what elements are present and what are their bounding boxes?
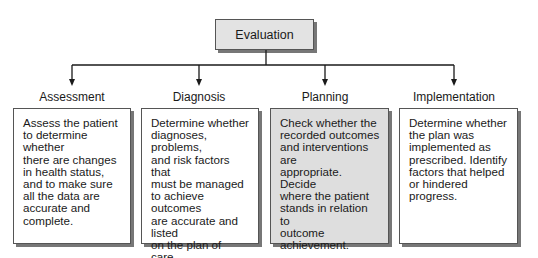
arrow-down-icon: [451, 79, 457, 86]
implementation-label: Implementation: [394, 90, 514, 104]
arrow-down-icon: [196, 79, 202, 86]
diagnosis-card: Determine whether diagnoses, problems, a…: [141, 108, 259, 244]
arrow-down-icon: [322, 79, 328, 86]
assessment-card: Assess the patient to determine whether …: [13, 108, 131, 244]
arrow-down-icon: [69, 79, 75, 86]
planning-card: Check whether the recorded outcomes and …: [270, 108, 389, 244]
implementation-description: Determine whether the plan was implement…: [409, 117, 509, 202]
assessment-label: Assessment: [12, 90, 132, 104]
planning-description: Check whether the recorded outcomes and …: [280, 117, 380, 251]
diagnosis-description: Determine whether diagnoses, problems, a…: [151, 117, 250, 258]
diagnosis-label: Diagnosis: [139, 90, 259, 104]
planning-label: Planning: [265, 90, 385, 104]
assessment-description: Assess the patient to determine whether …: [23, 117, 122, 227]
implementation-card: Determine whether the plan was implement…: [399, 108, 518, 244]
